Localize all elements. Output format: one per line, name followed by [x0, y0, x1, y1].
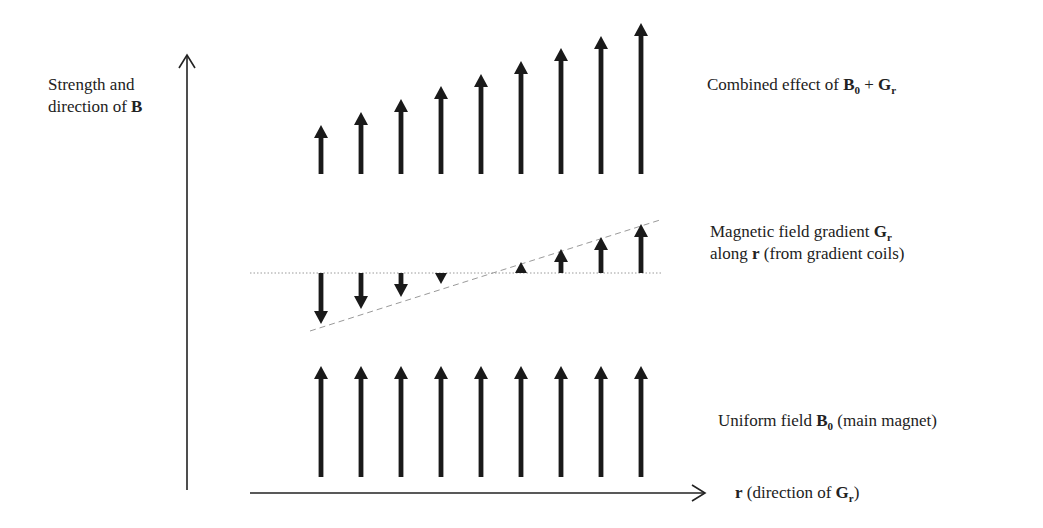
up-arrow: [314, 366, 328, 477]
up-arrow: [514, 61, 528, 174]
up-arrow: [434, 86, 448, 174]
x-axis-label: r (direction of Gr): [735, 482, 859, 504]
combined-effect-label: Combined effect of B0 + Gr: [707, 74, 896, 96]
down-arrow: [354, 273, 368, 309]
y-axis-label-line1: Strength and: [48, 74, 142, 96]
up-arrow: [474, 74, 488, 174]
up-arrow: [594, 237, 608, 273]
up-arrow: [594, 36, 608, 174]
up-arrow: [354, 366, 368, 477]
b-symbol: B: [131, 97, 142, 116]
up-arrow: [474, 366, 488, 477]
down-arrow: [435, 273, 447, 284]
gradient-field-arrows: [314, 224, 648, 324]
down-arrow: [314, 273, 328, 324]
up-arrow: [634, 224, 648, 273]
up-arrow: [554, 366, 568, 477]
b0-symbol: B0: [816, 411, 833, 430]
up-arrow: [514, 366, 528, 477]
up-arrow: [434, 366, 448, 477]
up-arrow: [354, 112, 368, 174]
y-axis: [179, 55, 195, 490]
y-axis-label-line2: direction of B: [48, 96, 142, 118]
uniform-field-label: Uniform field B0 (main magnet): [718, 410, 937, 432]
r-symbol: r: [752, 244, 760, 263]
up-arrow: [515, 262, 527, 273]
r-symbol: r: [735, 483, 743, 502]
down-arrow: [394, 273, 408, 297]
gradient-label: Magnetic field gradient Gr along r (from…: [710, 221, 905, 265]
up-arrow: [634, 23, 648, 174]
gr-symbol: Gr: [878, 75, 896, 94]
up-arrow: [394, 99, 408, 174]
up-arrow: [594, 366, 608, 477]
up-arrow: [634, 366, 648, 477]
b0-symbol: B0: [843, 75, 860, 94]
up-arrow: [554, 48, 568, 174]
gr-symbol: Gr: [836, 483, 854, 502]
gradient-label-line1: Magnetic field gradient Gr: [710, 221, 905, 243]
up-arrow: [314, 125, 328, 174]
up-arrow: [394, 366, 408, 477]
combined-field-arrows: [314, 23, 648, 174]
gradient-label-line2: along r (from gradient coils): [710, 243, 905, 265]
y-axis-label: Strength and direction of B: [48, 74, 142, 118]
gradient-guides: [250, 220, 662, 331]
uniform-field-arrows: [314, 366, 648, 477]
x-axis: [250, 485, 705, 501]
gr-symbol: Gr: [874, 222, 892, 241]
up-arrow: [554, 249, 568, 273]
